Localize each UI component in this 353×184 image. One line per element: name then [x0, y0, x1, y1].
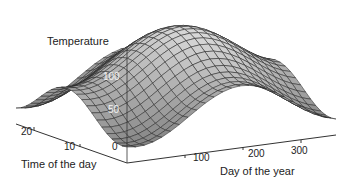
y-tick-label-20: 20: [21, 126, 32, 137]
z-tick-label-50: 50: [108, 104, 119, 115]
y-tick-label-10: 10: [64, 141, 75, 152]
x-tick-label-200: 200: [248, 148, 265, 159]
surface-plot: [0, 0, 353, 184]
y-axis-label: Time of the day: [21, 158, 96, 170]
y-tick-label-0: 0: [112, 141, 118, 152]
z-tick-label-100: 100: [103, 71, 120, 82]
x-axis-label: Day of the year: [220, 165, 295, 177]
z-axis-label: Temperature: [47, 35, 109, 47]
x-tick-label-100: 100: [193, 152, 210, 163]
x-tick-label-300: 300: [291, 145, 308, 156]
